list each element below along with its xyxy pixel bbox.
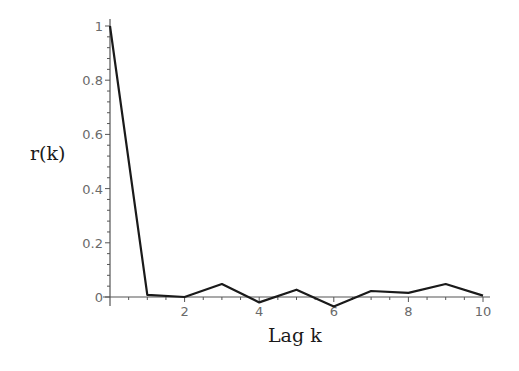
y-axis-title: r(k) [30, 142, 65, 164]
x-axis-title: Lag k [268, 324, 322, 346]
autocorrelation-chart: 00.20.40.60.81246810 r(k) Lag k [0, 0, 519, 371]
x-tick-label: 2 [180, 304, 188, 319]
axes [103, 19, 490, 306]
x-tick-label: 4 [255, 304, 263, 319]
y-tick-label: 1 [95, 19, 103, 34]
y-tick-label: 0.6 [82, 127, 103, 142]
x-tick-label: 10 [475, 304, 492, 319]
y-tick-label: 0.4 [82, 182, 103, 197]
x-tick-label: 8 [404, 304, 412, 319]
y-tick-label: 0.2 [82, 236, 103, 251]
y-tick-label: 0 [95, 290, 103, 305]
series-line [110, 26, 483, 307]
axis-ticks [105, 26, 483, 302]
y-tick-label: 0.8 [82, 73, 103, 88]
